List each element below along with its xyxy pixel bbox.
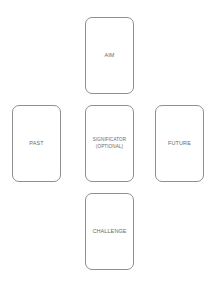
card-aim-label: AIM bbox=[104, 52, 114, 59]
card-challenge-label: CHALLENGE bbox=[92, 228, 126, 235]
card-past: PAST bbox=[12, 105, 61, 182]
card-future-label: FUTURE bbox=[168, 140, 191, 147]
card-challenge: CHALLENGE bbox=[85, 193, 134, 270]
card-aim: AIM bbox=[85, 17, 134, 94]
card-future: FUTURE bbox=[155, 105, 204, 182]
card-significator-sublabel: (OPTIONAL) bbox=[96, 144, 123, 150]
card-significator: SIGNIFICATOR (OPTIONAL) bbox=[85, 105, 134, 182]
card-past-label: PAST bbox=[29, 140, 43, 147]
